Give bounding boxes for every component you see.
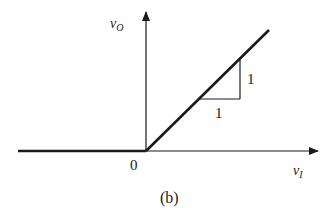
slope-run-label: 1 bbox=[215, 105, 223, 121]
transfer-characteristic-diagram: vO vI 0 1 1 (b) bbox=[0, 0, 328, 220]
origin-label: 0 bbox=[130, 157, 138, 173]
y-axis-label: vO bbox=[110, 16, 123, 33]
x-axis-label: vI bbox=[293, 163, 303, 180]
characteristic-slope-segment bbox=[146, 30, 269, 151]
figure-caption: (b) bbox=[160, 189, 179, 207]
slope-rise-label: 1 bbox=[247, 71, 255, 87]
